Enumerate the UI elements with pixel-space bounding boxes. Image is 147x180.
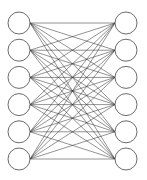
node-R1 — [115, 12, 137, 34]
node-L1 — [8, 12, 30, 34]
node-L3 — [8, 66, 30, 88]
node-L2 — [8, 39, 30, 61]
edge-group — [30, 23, 115, 159]
node-R6 — [115, 148, 137, 170]
node-L4 — [8, 94, 30, 116]
network-diagram — [0, 0, 147, 180]
node-L6 — [8, 148, 30, 170]
node-L5 — [8, 121, 30, 143]
network-svg — [0, 0, 147, 180]
node-R2 — [115, 39, 137, 61]
node-R5 — [115, 121, 137, 143]
node-R3 — [115, 66, 137, 88]
node-R4 — [115, 94, 137, 116]
